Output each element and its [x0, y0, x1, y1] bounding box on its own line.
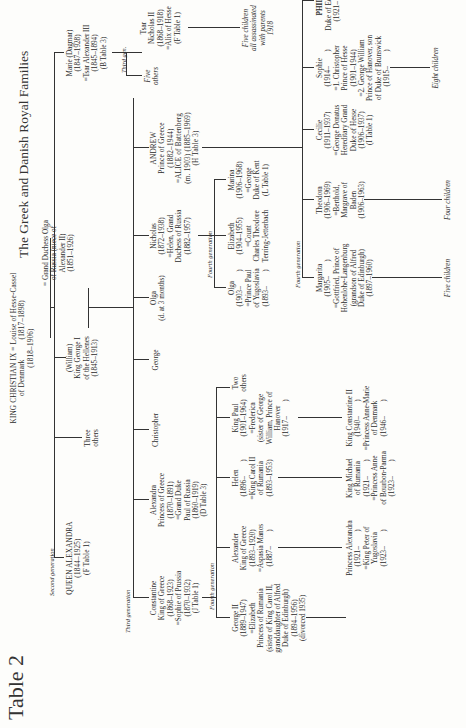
tsar-five-children: Five children all assassinated with pare… [242, 0, 276, 68]
alexandra-greece-branch [133, 499, 149, 500]
helen-children-drop [278, 477, 342, 478]
constantine-branch [133, 597, 149, 598]
king-christian-ix: KING CHRISTIAN IX = Louise of Hesse-Cass… [10, 208, 35, 488]
third-generation-label: Third generation [124, 590, 131, 633]
table-label: Table 2 [4, 655, 28, 720]
tsar-nicholas-ii: Tsar Nicholas II (1868–1918) =Alix of He… [140, 0, 182, 68]
fourth-generation-label-1: Fourth generation [208, 563, 215, 610]
george-ii-branch [216, 617, 230, 618]
theodora-children-drop [364, 199, 442, 200]
margarita-five-children: Five children [444, 238, 452, 318]
alexander-branch [216, 547, 230, 548]
third-gen-short-label: Third gen. [120, 47, 127, 73]
paul-branch [216, 417, 230, 418]
margarita-children-drop [372, 277, 442, 278]
helen-branch [216, 477, 230, 478]
elizabeth-branch [214, 235, 226, 236]
king-constantine-ii: King Constantine II (1940– ) =Princess A… [346, 363, 388, 473]
philip-duke-of-edinburgh: Duke of Edinburgh (1921– ) [325, 0, 342, 48]
marie-dagmar: Marie (Dagmar) (1847–1928) =Tsar Alexand… [66, 0, 108, 108]
alexander-children-drop [278, 547, 342, 548]
philip-branch [302, 0, 314, 1]
christopher-branch [133, 429, 149, 430]
tsar-children-drop [188, 27, 240, 28]
marie-branch [54, 52, 64, 53]
five-others-branch [126, 75, 142, 76]
queen-alexandra: QUEEN ALEXANDRA (1844–1925) (F Table 1) [66, 508, 91, 608]
george-children-drop [88, 307, 133, 308]
andrew-branch [133, 147, 149, 148]
cecilie-branch [302, 129, 314, 130]
three-others: Three others [84, 418, 101, 458]
olga-infant-branch [133, 297, 149, 298]
three-others-branch [54, 437, 82, 438]
grand-duchess-olga: = Grand Duchess Olga of Russia (niece of… [42, 203, 76, 303]
nicholas-branch [133, 235, 149, 236]
third-gen-bar [133, 98, 134, 598]
fourth-generation-label-3: Fourth generation [294, 241, 301, 288]
philip-name: PHILIP [316, 0, 324, 48]
sophie-branch [302, 67, 314, 68]
olga-yugoslavia-branch [214, 287, 226, 288]
sophie-eight-children: Eight children [432, 28, 440, 108]
fourth-generation-label-2: Fourth generation [206, 231, 213, 278]
fourth-gen-bar-andrew [302, 0, 303, 278]
constantine-king-of-greece: Constantine King of Greece (1868–1923) =… [150, 548, 200, 648]
margarita-branch [302, 277, 314, 278]
sophie-children-drop [390, 67, 430, 68]
george-ii-children-line [306, 617, 346, 618]
george-branch [133, 359, 149, 360]
theodora-four-children: Four children [444, 160, 452, 240]
alexandra-branch [54, 557, 64, 558]
christopher: Christopher [152, 390, 160, 470]
two-others-branch [216, 387, 230, 388]
marina: Marina (1906–1968) =George Duke of Kent … [228, 142, 270, 218]
second-gen-bar [54, 53, 55, 558]
genealogy-page: Table 2 The Greek and Danish Royal Famil… [0, 0, 466, 728]
george-i-branch [54, 357, 66, 358]
king-george-i: (William) King George I of the Hellenes … [66, 308, 100, 408]
fourth-gen-bar-constantine [216, 388, 217, 618]
andrew-children-drop [202, 147, 302, 148]
theodora-branch [302, 199, 314, 200]
marina-branch [214, 179, 226, 180]
second-generation-label: Second generation [48, 548, 55, 596]
andrew-prince-of-greece: ANDREW Prince of Greece (1882–1944) =ALI… [150, 93, 200, 203]
two-others: Two others [232, 363, 249, 403]
paul-children-drop [298, 417, 342, 418]
george-olga-marriage [88, 288, 89, 328]
